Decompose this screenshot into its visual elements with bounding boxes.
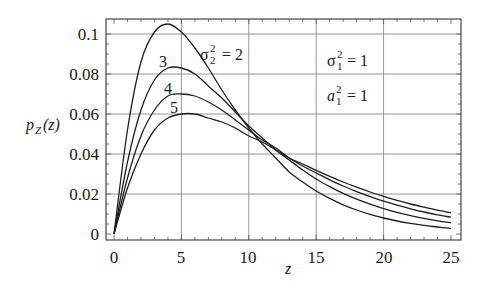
sigma2-symbol: σ xyxy=(200,46,209,63)
x-axis-label: z xyxy=(284,260,292,277)
sigma1-sub: 1 xyxy=(337,60,343,72)
sigma1-eq: = 1 xyxy=(347,52,368,69)
curve-label-4: 4 xyxy=(164,80,172,97)
y-tick-label: 0.02 xyxy=(69,185,99,204)
curve-sigma2-5 xyxy=(114,114,451,235)
sigma2-eq: = 2 xyxy=(222,46,243,63)
y-axis-label-arg: (z) xyxy=(43,116,60,134)
curve-label-3: 3 xyxy=(159,53,167,70)
a1-symbol: a xyxy=(327,87,335,104)
annotation-sigma1: σ 2 1 = 1 xyxy=(327,48,368,72)
a1-eq: = 1 xyxy=(347,87,368,104)
x-tick-label: 10 xyxy=(240,248,257,267)
sigma1-symbol: σ xyxy=(327,52,336,69)
sigma1-sup: 2 xyxy=(337,48,343,60)
x-tick-label: 0 xyxy=(110,248,119,267)
annotation-sigma2: σ 2 2 = 2 xyxy=(200,42,243,66)
x-tick-label: 25 xyxy=(443,248,460,267)
chart: 0.1 0.08 0.06 0.04 0.02 0 0 5 10 15 20 2… xyxy=(0,0,488,291)
y-axis-label-sub: Z xyxy=(35,124,42,136)
y-tick-label: 0.06 xyxy=(69,105,99,124)
y-tick-label: 0.08 xyxy=(69,65,99,84)
y-tick-label: 0.1 xyxy=(78,25,99,44)
y-tick-labels: 0.1 0.08 0.06 0.04 0.02 0 xyxy=(69,25,99,244)
y-axis-label: p Z (z) xyxy=(25,116,60,136)
annotation-a1: a 2 1 = 1 xyxy=(327,83,368,107)
x-tick-label: 15 xyxy=(308,248,325,267)
x-tick-label: 20 xyxy=(376,248,393,267)
a1-sup: 2 xyxy=(336,83,342,95)
sigma2-sub: 2 xyxy=(210,54,216,66)
y-axis-label-main: p xyxy=(25,116,34,134)
sigma2-sup: 2 xyxy=(210,42,216,54)
y-tick-label: 0.04 xyxy=(69,145,99,164)
a1-sub: 1 xyxy=(336,95,342,107)
x-tick-label: 5 xyxy=(177,248,186,267)
y-tick-label: 0 xyxy=(91,225,100,244)
curve-label-5: 5 xyxy=(170,99,178,116)
